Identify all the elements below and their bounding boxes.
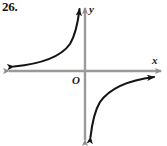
curve-branch-quadrant-2 xyxy=(14,9,80,67)
y-axis-label: y xyxy=(87,3,94,15)
curve-branch-quadrant-4 xyxy=(91,77,155,137)
origin-label: O xyxy=(72,74,80,86)
figure-container: 26. y x O xyxy=(0,0,167,146)
hyperbola-graph: y x O xyxy=(0,0,167,146)
x-axis-label: x xyxy=(151,54,158,66)
